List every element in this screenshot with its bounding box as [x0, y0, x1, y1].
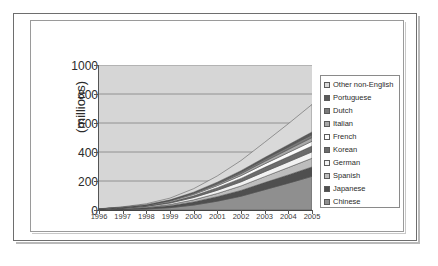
y-tick-label: 600 [54, 119, 98, 129]
legend-item-label: Portuguese [333, 93, 371, 102]
legend-swatch-icon [324, 82, 330, 88]
stacked-area-svg [99, 65, 312, 210]
legend-item[interactable]: Portuguese [324, 91, 397, 104]
y-tick-label: 800 [54, 90, 98, 100]
legend-swatch-icon [324, 173, 330, 179]
legend-swatch-icon [324, 147, 330, 153]
y-axis-ticks: 1000 800 600 400 200 0 [46, 20, 98, 232]
legend-item[interactable]: Japanese [324, 182, 397, 195]
y-tick-label: 1000 [54, 61, 98, 71]
legend-swatch-icon [324, 160, 330, 166]
screenshot-root: (millions) 1000 800 600 400 200 0 199619… [0, 0, 438, 266]
x-axis-ticks: 1996199719981999200020012002200320042005 [99, 212, 313, 228]
legend-item-label: German [333, 158, 360, 167]
legend-item[interactable]: Korean [324, 143, 397, 156]
y-tick-label: 200 [54, 177, 98, 187]
legend-item[interactable]: Italian [324, 117, 397, 130]
legend-swatch-icon [324, 121, 330, 127]
legend-swatch-icon [324, 186, 330, 192]
legend-item-label: Spanish [333, 171, 360, 180]
y-tick-label: 400 [54, 148, 98, 158]
legend-swatch-icon [324, 95, 330, 101]
x-tick-label: 2005 [297, 212, 327, 221]
legend-item-label: Italian [333, 119, 353, 128]
legend-item-label: Korean [333, 145, 357, 154]
legend-item-label: Other non-English [333, 80, 393, 89]
legend-item-label: French [333, 132, 356, 141]
legend-item[interactable]: German [324, 156, 397, 169]
legend-item[interactable]: French [324, 130, 397, 143]
chart-area: (millions) 1000 800 600 400 200 0 199619… [30, 20, 404, 232]
legend-item-label: Dutch [333, 106, 353, 115]
legend-swatch-icon [324, 108, 330, 114]
legend-swatch-icon [324, 199, 330, 205]
legend-swatch-icon [324, 134, 330, 140]
chart-legend[interactable]: Other non-EnglishPortugueseDutchItalianF… [320, 75, 400, 208]
legend-item[interactable]: Chinese [324, 195, 397, 208]
legend-item[interactable]: Spanish [324, 169, 397, 182]
plot-canvas [99, 65, 312, 210]
legend-item[interactable]: Dutch [324, 104, 397, 117]
legend-item-label: Japanese [333, 184, 366, 193]
legend-item-label: Chinese [333, 197, 361, 206]
y-axis-line [98, 65, 99, 211]
legend-item[interactable]: Other non-English [324, 78, 397, 91]
x-axis-line [98, 210, 312, 211]
